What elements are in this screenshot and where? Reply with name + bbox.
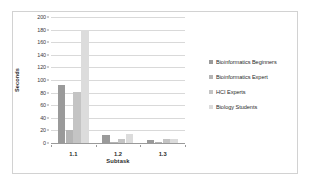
y-axis-tick-label: 80: [40, 90, 46, 96]
y-axis-tick-mark: [47, 143, 49, 144]
y-axis-tick-label: 0: [43, 140, 46, 146]
y-axis-tick-mark: [47, 67, 49, 68]
y-axis-tick-label: 200: [37, 14, 46, 20]
y-axis-tick-mark: [47, 17, 49, 18]
bar[interactable]: [147, 140, 154, 143]
x-axis-tick-label: 1.3: [159, 151, 167, 157]
bar[interactable]: [102, 135, 109, 143]
x-axis-tick-mark: [140, 145, 141, 147]
x-axis-tick-label: 1.1: [69, 151, 77, 157]
y-axis-tick-mark: [47, 80, 49, 81]
x-axis-tick-label: 1.2: [114, 151, 122, 157]
legend-swatch-icon: [209, 60, 213, 64]
y-axis-tick-label: 60: [40, 102, 46, 108]
y-axis-tick-mark: [47, 54, 49, 55]
y-axis-tick-mark: [47, 92, 49, 93]
bar[interactable]: [81, 30, 88, 143]
bar[interactable]: [73, 92, 80, 143]
y-axis-tick-label: 100: [37, 77, 46, 83]
y-axis-tick-label: 20: [40, 127, 46, 133]
chart-legend: Bioinformatics BeginnersBioinformatics E…: [209, 54, 295, 114]
legend-item[interactable]: Biology Students: [209, 99, 295, 114]
legend-label: Bioinformatics Expert: [216, 74, 268, 80]
bar[interactable]: [163, 139, 170, 143]
y-axis-tick-label: 140: [37, 52, 46, 58]
legend-swatch-icon: [209, 75, 213, 79]
legend-label: Biology Students: [216, 104, 257, 110]
chart-frame: Seconds 020406080100120140160180200 1.11…: [12, 11, 298, 174]
y-axis-tick-label: 180: [37, 27, 46, 33]
x-axis-title: Subtask: [51, 158, 185, 164]
legend-item[interactable]: HCI Experts: [209, 84, 295, 99]
x-axis-tick-mark: [51, 145, 52, 147]
legend-label: Bioinformatics Beginners: [216, 59, 277, 65]
legend-swatch-icon: [209, 105, 213, 109]
y-axis-tick-mark: [47, 130, 49, 131]
y-axis-tick-mark: [47, 42, 49, 43]
bar[interactable]: [110, 142, 117, 143]
y-axis-tick-label: 120: [37, 64, 46, 70]
y-axis-tick-label: 40: [40, 115, 46, 121]
bar[interactable]: [155, 142, 162, 143]
bar[interactable]: [58, 85, 65, 143]
legend-swatch-icon: [209, 90, 213, 94]
legend-label: HCI Experts: [216, 89, 246, 95]
legend-item[interactable]: Bioinformatics Expert: [209, 69, 295, 84]
bar[interactable]: [66, 130, 73, 143]
y-axis-tick-labels: 020406080100120140160180200: [13, 17, 49, 143]
bar-cluster: [58, 17, 89, 143]
bar[interactable]: [126, 134, 133, 143]
plot-area: [51, 17, 185, 143]
legend-item[interactable]: Bioinformatics Beginners: [209, 54, 295, 69]
x-axis-tick-mark: [185, 145, 186, 147]
bars-layer: [51, 17, 185, 143]
y-axis-tick-mark: [47, 117, 49, 118]
y-axis-tick-mark: [47, 105, 49, 106]
y-axis-tick-label: 160: [37, 39, 46, 45]
x-axis-tick-labels: 1.11.21.3: [51, 145, 185, 157]
bar[interactable]: [170, 139, 177, 143]
bar[interactable]: [118, 139, 125, 143]
gridline: [51, 143, 185, 144]
x-axis-tick-mark: [96, 145, 97, 147]
bar-cluster: [102, 17, 133, 143]
y-axis-tick-mark: [47, 29, 49, 30]
bar-cluster: [147, 17, 178, 143]
